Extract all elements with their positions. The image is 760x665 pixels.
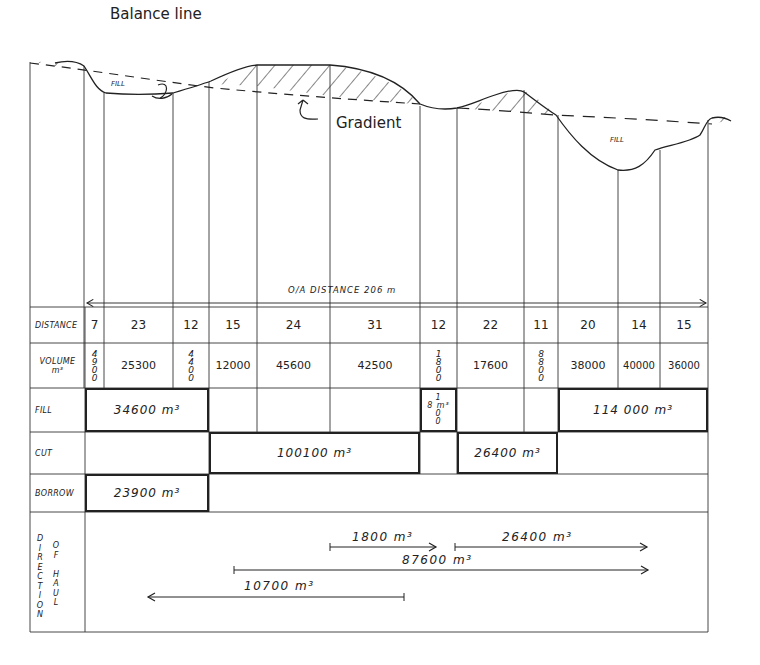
distance-cell: 15 [660, 307, 708, 343]
distance-cell: 22 [457, 307, 524, 343]
mass-haul-diagram: Balance line Gradient FILL FILL O/A DIST… [0, 0, 760, 665]
fill-box: 18 m³00 [420, 388, 457, 432]
distance-cell: 12 [173, 307, 209, 343]
haul-arrows [148, 543, 648, 601]
volume-cell: 38000 [558, 343, 618, 388]
distance-cell: 12 [420, 307, 457, 343]
distance-cell: 24 [257, 307, 330, 343]
volume-cell: 8800 [524, 346, 558, 386]
fill-label-right: FILL [610, 136, 624, 144]
row-label-borrow: BORROW [30, 474, 85, 512]
distance-cell: 31 [330, 307, 420, 343]
balance-line-label: Balance line [110, 5, 202, 23]
overall-distance-label: O/A DISTANCE 206 m [288, 285, 396, 295]
volume-cell: 42500 [330, 343, 420, 388]
volume-cell: 4400 [173, 346, 209, 386]
distance-cell: 7 [85, 307, 104, 343]
volume-cell: 17600 [457, 343, 524, 388]
cut-box: 100100 m³ [209, 432, 420, 474]
haul-label: 87600 m³ [402, 553, 473, 567]
volume-label: VOLUME [40, 357, 76, 366]
balance-line-pointer [152, 84, 172, 98]
distance-cell: 15 [209, 307, 257, 343]
fill-box: 114 000 m³ [558, 388, 708, 432]
fill-label-left: FILL [111, 80, 125, 88]
haul-label: 10700 m³ [244, 579, 315, 593]
row-label-cut: CUT [30, 432, 85, 474]
row-label-volume: VOLUME m³ [30, 343, 85, 388]
fill-box: 34600 m³ [85, 388, 209, 432]
volume-cell: 25300 [104, 343, 173, 388]
volume-cell: 1800 [420, 346, 457, 386]
cut-box: 26400 m³ [457, 432, 558, 474]
row-label-distance: DISTANCE [30, 307, 85, 343]
volume-cell: 4900 [85, 346, 104, 386]
distance-cell: 23 [104, 307, 173, 343]
row-label-of-haul: OF HAUL [51, 541, 61, 608]
distance-cell: 11 [524, 307, 558, 343]
distance-cell: 14 [618, 307, 660, 343]
haul-label: 26400 m³ [502, 530, 573, 544]
haul-label: 1800 m³ [352, 530, 413, 544]
distance-cell: 20 [558, 307, 618, 343]
gradient-label: Gradient [336, 114, 401, 132]
volume-cell: 45600 [257, 343, 330, 388]
gradient-pointer [298, 100, 318, 119]
volume-cell: 40000 [618, 343, 660, 388]
row-label-direction: DIRECTION [35, 534, 45, 620]
borrow-box: 23900 m³ [85, 474, 209, 512]
volume-cell: 36000 [660, 343, 708, 388]
volume-cell: 12000 [209, 343, 257, 388]
row-label-fill: FILL [30, 388, 85, 432]
volume-unit: m³ [52, 366, 64, 375]
